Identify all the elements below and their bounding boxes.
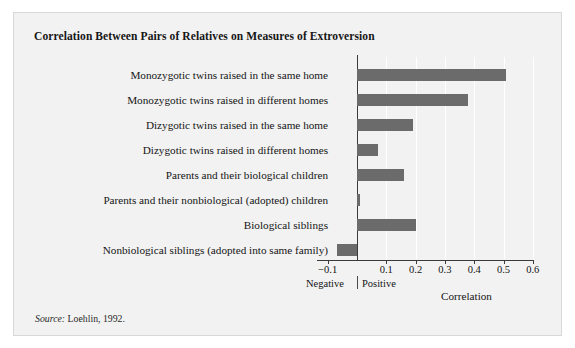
bar-row: Parents and their nonbiological (adopted…: [14, 188, 563, 213]
bar: [357, 144, 378, 156]
x-tick-label: 0.4: [468, 264, 481, 275]
category-label: Monozygotic twins raised in the same hom…: [14, 63, 336, 88]
negative-label: Negative: [306, 278, 344, 289]
source-prefix: Source:: [35, 313, 65, 324]
bar: [357, 94, 468, 106]
category-label: Dizygotic twins raised in the same home: [14, 113, 336, 138]
category-label: Monozygotic twins raised in different ho…: [14, 88, 336, 113]
category-label: Biological siblings: [14, 213, 336, 238]
source-value: Loehlin, 1992.: [65, 313, 125, 324]
bar-track: [344, 188, 550, 213]
x-tick-label: 0.6: [526, 264, 539, 275]
positive-label: Positive: [362, 278, 396, 289]
x-tick-label: −0.1: [318, 264, 337, 275]
bar: [357, 69, 506, 81]
bar: [337, 244, 358, 256]
page-title: Correlation Between Pairs of Relatives o…: [34, 30, 375, 42]
bar-track: [344, 88, 550, 113]
bar-track: [344, 213, 550, 238]
sign-divider: [357, 276, 358, 289]
bar-track: [344, 113, 550, 138]
x-tick-label: 0.1: [380, 264, 393, 275]
x-tick-label: 0.3: [438, 264, 451, 275]
bar-track: [344, 138, 550, 163]
bar: [357, 169, 404, 181]
bar: [357, 194, 360, 206]
bar: [357, 219, 416, 231]
bar-row: Dizygotic twins raised in different home…: [14, 138, 563, 163]
bar-row: Dizygotic twins raised in the same home: [14, 113, 563, 138]
plot-area: Monozygotic twins raised in the same hom…: [14, 57, 563, 272]
category-label: Dizygotic twins raised in different home…: [14, 138, 336, 163]
bar-row: Monozygotic twins raised in different ho…: [14, 88, 563, 113]
figure-card: Correlation Between Pairs of Relatives o…: [13, 12, 562, 336]
x-tick-label: 0.2: [409, 264, 422, 275]
bar-row: Monozygotic twins raised in the same hom…: [14, 63, 563, 88]
category-label: Parents and their biological children: [14, 163, 336, 188]
bar-row: Parents and their biological children: [14, 163, 563, 188]
bar-track: [344, 63, 550, 88]
source-note: Source: Loehlin, 1992.: [35, 313, 125, 324]
bar-track: [344, 163, 550, 188]
category-label: Nonbiological siblings (adopted into sam…: [14, 238, 336, 263]
x-axis-line: [317, 260, 534, 261]
bar: [357, 119, 413, 131]
x-axis-title: Correlation: [441, 290, 492, 302]
category-label: Parents and their nonbiological (adopted…: [14, 188, 336, 213]
bar-row: Biological siblings: [14, 213, 563, 238]
bar-rows: Monozygotic twins raised in the same hom…: [14, 63, 563, 263]
x-tick-label: 0.5: [497, 264, 510, 275]
